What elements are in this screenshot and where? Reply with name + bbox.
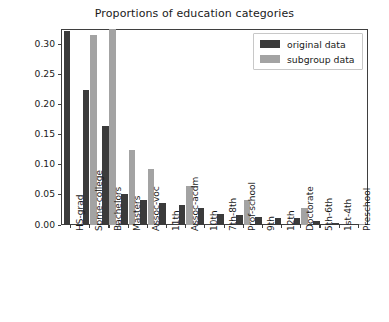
y-tick-label: 0.10 xyxy=(35,158,55,169)
x-tick-label: 5th-6th xyxy=(324,198,334,231)
x-tick-label: Masters xyxy=(132,196,142,231)
chart-legend: original data subgroup data xyxy=(253,33,363,70)
x-tick-label: Assoc-voc xyxy=(151,186,161,231)
x-tick-label: 9th xyxy=(266,216,276,231)
y-tick-label: 0.25 xyxy=(35,68,55,79)
x-tick-mark xyxy=(147,225,148,228)
x-tick-mark xyxy=(243,225,244,228)
legend-swatch-subgroup-data xyxy=(260,55,280,63)
y-tick-label: 0.05 xyxy=(35,188,55,199)
x-tick-label: Preschool xyxy=(362,188,372,231)
x-tick-mark xyxy=(204,225,205,228)
x-tick-mark xyxy=(89,225,90,228)
x-tick-label: Assoc-acdm xyxy=(190,177,200,231)
x-tick-mark xyxy=(70,225,71,228)
x-tick-label: 1st-4th xyxy=(343,199,353,231)
legend-label: original data xyxy=(287,39,346,50)
x-tick-mark xyxy=(185,225,186,228)
y-tick-label: 0.15 xyxy=(35,128,55,139)
x-tick-mark xyxy=(339,225,340,228)
x-tick-label: HS-grad xyxy=(75,195,85,231)
x-tick-label: Some-college xyxy=(94,170,104,231)
x-tick-mark xyxy=(300,225,301,228)
x-tick-label: Doctorate xyxy=(305,186,315,231)
x-tick-mark xyxy=(262,225,263,228)
chart-figure: Proportions of education categories Prop… xyxy=(0,0,389,322)
x-tick-label: 7th-8th xyxy=(228,198,238,231)
x-tick-label: 11th xyxy=(171,210,181,231)
x-tick-label: Bachelors xyxy=(113,187,123,231)
x-tick-mark xyxy=(358,225,359,228)
legend-item: original data xyxy=(260,38,355,50)
x-tick-mark xyxy=(224,225,225,228)
x-tick-label: 12th xyxy=(286,210,296,231)
x-tick-mark xyxy=(166,225,167,228)
x-tick-mark xyxy=(108,225,109,228)
bar-original-data xyxy=(64,31,71,225)
x-tick-mark xyxy=(281,225,282,228)
x-tick-mark xyxy=(319,225,320,228)
x-tick-label: Prof-school xyxy=(247,182,257,231)
legend-item: subgroup data xyxy=(260,53,355,65)
y-tick-label: 0.00 xyxy=(35,219,55,230)
y-tick-label: 0.30 xyxy=(35,38,55,49)
chart-title: Proportions of education categories xyxy=(0,7,389,20)
y-tick-label: 0.20 xyxy=(35,98,55,109)
legend-swatch-original-data xyxy=(260,40,280,48)
x-tick-mark xyxy=(128,225,129,228)
legend-label: subgroup data xyxy=(287,54,355,65)
x-tick-label: 10th xyxy=(209,210,219,231)
